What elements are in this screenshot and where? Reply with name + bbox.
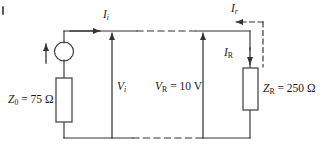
source-circle xyxy=(55,42,74,61)
source-impedance-label: Z0 = 75 Ω xyxy=(8,94,53,107)
load-voltage-label: VR = 10 V xyxy=(155,81,202,94)
load-resistor-box xyxy=(243,68,258,110)
load-current-label: IR xyxy=(224,47,233,60)
reflected-current-label: Ir xyxy=(231,3,238,16)
circuit-schematic-svg xyxy=(0,0,331,155)
circuit-diagram: Ii Ir IR Vi VR = 10 V Z0 = 75 Ω ZR = 250… xyxy=(0,0,331,155)
incident-current-label: Ii xyxy=(103,9,109,22)
source-resistor-box xyxy=(56,78,72,122)
incident-voltage-label: Vi xyxy=(117,81,126,94)
load-impedance-label: ZR = 250 Ω xyxy=(263,83,316,96)
